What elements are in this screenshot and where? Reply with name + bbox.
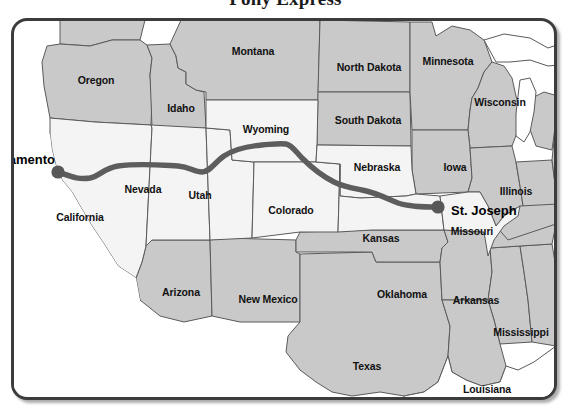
city-dot-sacramento-svg bbox=[51, 165, 64, 178]
lake-superior bbox=[484, 34, 557, 66]
map-geography bbox=[11, 18, 557, 400]
state-shape-iowa bbox=[412, 130, 472, 194]
state-shape-colorado bbox=[252, 162, 340, 238]
pony-express-map-figure: Pony Express bbox=[0, 0, 571, 415]
state-shape-south-dakota bbox=[317, 92, 411, 146]
map-title: Pony Express bbox=[0, 0, 571, 10]
state-shape-oregon bbox=[42, 40, 152, 125]
city-dot-st-joseph-svg bbox=[431, 200, 444, 213]
state-shape-montana bbox=[170, 18, 320, 100]
state-shape-north-dakota bbox=[318, 20, 410, 92]
map-frame: OregonIdahoMontanaNorth DakotaSouth Dako… bbox=[11, 18, 557, 400]
state-shape-nevada bbox=[146, 125, 210, 246]
state-shape-arizona bbox=[136, 240, 212, 322]
state-shape-florida-panhandle bbox=[556, 320, 557, 352]
state-shape-arkansas bbox=[440, 230, 492, 300]
state-shape-new-mexico bbox=[210, 238, 300, 322]
state-shape-texas bbox=[286, 252, 450, 396]
